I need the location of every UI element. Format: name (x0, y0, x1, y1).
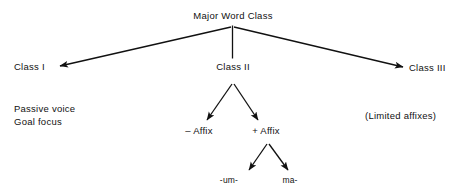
node-major-word-class: Major Word Class (193, 10, 272, 22)
node-class-one: Class I (14, 61, 45, 73)
node-plus-affix: + Affix (252, 125, 280, 137)
edge-plus-affix-to-infix-um (249, 144, 267, 170)
edge-root-to-class-three (234, 27, 403, 67)
node-minus-affix: – Affix (185, 125, 212, 137)
node-class-three: Class III (409, 62, 446, 74)
annotation-class-one-features: Passive voice Goal focus (14, 103, 75, 128)
edge-root-to-class-one (60, 27, 231, 66)
edge-layer (0, 0, 459, 196)
node-infix-um: -um- (220, 174, 238, 186)
node-prefix-ma: ma- (282, 174, 297, 186)
annotation-goal-focus: Goal focus (14, 116, 75, 129)
edge-class-two-to-minus-affix (207, 84, 232, 120)
annotation-passive-voice: Passive voice (14, 103, 75, 116)
tree-diagram: Major Word Class Class I Class II Class … (0, 0, 459, 196)
node-class-two: Class II (216, 61, 250, 73)
edge-class-two-to-plus-affix (234, 84, 258, 120)
annotation-limited-affixes: (Limited affixes) (365, 110, 436, 123)
edge-plus-affix-to-prefix-ma (269, 144, 288, 170)
